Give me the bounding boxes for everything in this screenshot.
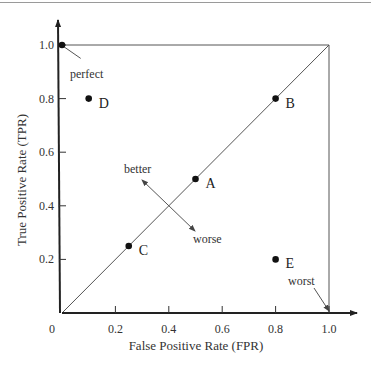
x-tick-label: 0 bbox=[49, 322, 55, 336]
point-b bbox=[272, 95, 279, 102]
y-tick-label: 0.8 bbox=[39, 92, 54, 106]
x-axis-title: False Positive Rate (FPR) bbox=[129, 338, 264, 353]
y-tick-label: 0.6 bbox=[39, 145, 54, 159]
y-tick-label: 0.2 bbox=[39, 252, 54, 266]
point-a bbox=[192, 176, 199, 183]
annotation-worse: worse bbox=[193, 232, 222, 246]
point-label-e: E bbox=[286, 256, 295, 271]
worst-arrow bbox=[314, 288, 329, 311]
y-axis bbox=[58, 20, 60, 313]
better-arrow bbox=[142, 180, 167, 204]
perfect-arrow bbox=[63, 46, 80, 58]
point-label-a: A bbox=[206, 176, 217, 191]
x-tick-label: 0.4 bbox=[161, 322, 176, 336]
annotation-perfect: perfect bbox=[70, 67, 104, 81]
point-c bbox=[125, 243, 132, 250]
x-tick-label: 0.2 bbox=[108, 322, 123, 336]
worse-arrow bbox=[167, 204, 195, 231]
y-ticks: 0.20.40.60.81.0 bbox=[39, 38, 66, 266]
x-ticks: 00.20.40.60.81.0 bbox=[49, 306, 337, 336]
y-axis-title: True Positive Rate (TPR) bbox=[14, 114, 29, 246]
x-tick-label: 1.0 bbox=[322, 322, 337, 336]
point-label-b: B bbox=[286, 96, 295, 111]
y-tick-label: 1.0 bbox=[39, 38, 54, 52]
x-tick-label: 0.6 bbox=[215, 322, 230, 336]
point-e bbox=[272, 256, 279, 263]
roc-space-chart: 00.20.40.60.81.0 0.20.40.60.81.0 perfect… bbox=[0, 0, 371, 365]
point-label-c: C bbox=[139, 243, 148, 258]
point-d bbox=[85, 95, 92, 102]
x-tick-label: 0.8 bbox=[268, 322, 283, 336]
point-label-d: D bbox=[99, 96, 109, 111]
annotation-better: better bbox=[124, 162, 151, 176]
annotation-worst: worst bbox=[288, 274, 315, 288]
y-tick-label: 0.4 bbox=[39, 199, 54, 213]
point-perfect bbox=[59, 42, 66, 49]
